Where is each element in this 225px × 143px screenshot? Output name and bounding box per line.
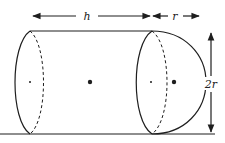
diameter-label: 2r bbox=[204, 78, 218, 91]
left-center-dot bbox=[29, 81, 31, 83]
cylinder-center-dot bbox=[88, 80, 92, 84]
cylinder-hemisphere-diagram: h r 2r bbox=[0, 0, 225, 143]
right-ellipse-hidden-arc bbox=[152, 31, 167, 134]
hemisphere-arc bbox=[152, 31, 206, 134]
left-ellipse-front-arc bbox=[15, 31, 30, 134]
r-label: r bbox=[172, 10, 178, 23]
right-center-dot bbox=[150, 81, 152, 83]
h-label: h bbox=[83, 10, 90, 23]
left-ellipse-hidden-arc bbox=[30, 31, 44, 134]
right-ellipse-front-arc bbox=[136, 31, 152, 134]
hemisphere-center-dot bbox=[172, 80, 176, 84]
